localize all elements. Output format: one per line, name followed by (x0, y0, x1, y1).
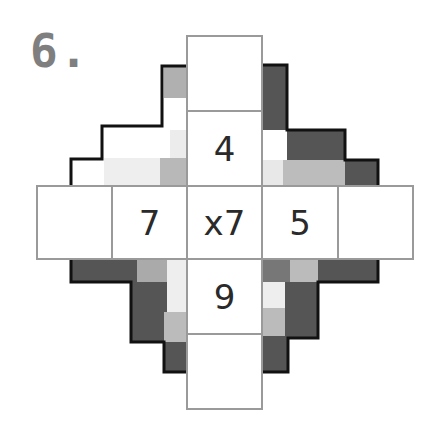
puzzle-stage: 6. 4 7 (0, 0, 431, 438)
cell-bottom-inner[interactable]: 9 (186, 258, 263, 335)
cell-left-outer[interactable] (36, 185, 113, 260)
cell-top-inner[interactable]: 4 (186, 110, 263, 187)
cell-top-outer[interactable] (186, 35, 263, 112)
cell-left-inner[interactable]: 7 (111, 185, 188, 260)
cell-bottom-outer[interactable] (186, 333, 263, 410)
puzzle-number: 6. (30, 28, 89, 74)
cell-right-inner[interactable]: 5 (261, 185, 339, 260)
cell-right-outer[interactable] (337, 185, 414, 260)
cell-center: x7 (186, 185, 263, 260)
